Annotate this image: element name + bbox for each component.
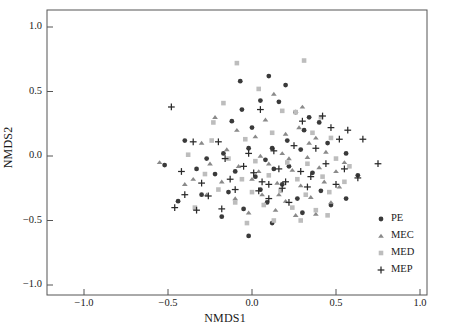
legend-label-pe: PE [391, 212, 403, 223]
point-square [327, 190, 332, 195]
point-square [329, 136, 334, 141]
point-circle [344, 196, 349, 201]
point-square [310, 130, 315, 135]
point-square [186, 152, 191, 157]
point-circle [226, 190, 231, 195]
point-circle [285, 138, 290, 143]
point-square [303, 192, 308, 197]
point-circle [298, 147, 303, 152]
x-tick-label: 0.5 [306, 297, 366, 308]
point-square [270, 130, 275, 135]
point-circle [295, 196, 300, 201]
point-circle [204, 156, 209, 161]
x-tick-label: −0.5 [138, 297, 198, 308]
point-circle [233, 169, 238, 174]
point-square [325, 213, 330, 218]
point-circle [240, 107, 245, 112]
point-square [240, 177, 245, 182]
y-tick-label: 1.0 [0, 20, 42, 31]
y-tick-label: −1.0 [0, 278, 42, 289]
point-square [209, 138, 214, 143]
point-square [211, 120, 216, 125]
point-square [320, 174, 325, 179]
point-circle [258, 98, 263, 103]
y-axis-title: NMDS2 [1, 118, 16, 178]
point-square [290, 205, 295, 210]
point-square [256, 87, 261, 92]
point-circle [246, 234, 251, 239]
point-circle [263, 157, 268, 162]
point-circle [241, 206, 246, 211]
point-square [293, 110, 298, 115]
point-circle [229, 119, 234, 124]
point-square [233, 200, 238, 205]
x-axis-title: NMDS1 [0, 311, 450, 326]
point-circle [182, 138, 187, 143]
point-circle [318, 188, 323, 193]
point-square [302, 58, 307, 63]
point-square [235, 61, 240, 66]
x-tick-label: −1.0 [54, 297, 114, 308]
point-circle [199, 192, 204, 197]
point-circle [213, 172, 218, 177]
point-circle [317, 120, 322, 125]
point-circle [344, 151, 349, 156]
point-square [342, 180, 347, 185]
nmds-scatter-figure: −1.0−0.50.00.51.0 −1.0−0.50.00.51.0 PEME… [0, 0, 450, 332]
legend-label-mec: MEC [391, 229, 414, 240]
x-tick-label: 1.0 [390, 297, 450, 308]
point-square [272, 218, 277, 223]
point-circle [176, 199, 181, 204]
point-square [243, 137, 248, 142]
point-circle [325, 141, 330, 146]
legend-label-mep: MEP [391, 263, 413, 274]
point-square [280, 109, 285, 114]
point-square [267, 173, 272, 178]
point-square [314, 208, 319, 213]
point-square [203, 172, 208, 177]
point-square [250, 190, 255, 195]
point-circle [246, 146, 251, 151]
plot-frame [47, 10, 427, 295]
point-square [347, 164, 352, 169]
point-circle [238, 79, 243, 84]
point-circle [162, 163, 167, 168]
point-circle [379, 217, 384, 222]
legend-label-med: MED [391, 246, 414, 257]
point-circle [283, 83, 288, 88]
point-circle [302, 128, 307, 133]
point-square [305, 161, 310, 166]
point-circle [250, 125, 255, 130]
point-square [334, 156, 339, 161]
x-tick-label: 0.0 [222, 297, 282, 308]
point-square [261, 203, 266, 208]
y-tick-label: −0.5 [0, 214, 42, 225]
point-circle [194, 167, 199, 172]
point-square [253, 159, 258, 164]
point-square [216, 187, 221, 192]
point-square [221, 101, 226, 106]
point-circle [266, 74, 271, 79]
y-tick-label: 0.5 [0, 85, 42, 96]
point-square [379, 251, 384, 256]
point-square [298, 218, 303, 223]
point-circle [300, 210, 305, 215]
point-square [245, 221, 250, 226]
point-square [285, 160, 290, 165]
point-circle [307, 115, 312, 120]
point-circle [221, 151, 226, 156]
point-circle [276, 99, 281, 104]
point-square [295, 177, 300, 182]
point-circle [219, 214, 224, 219]
plot-canvas [0, 0, 450, 332]
